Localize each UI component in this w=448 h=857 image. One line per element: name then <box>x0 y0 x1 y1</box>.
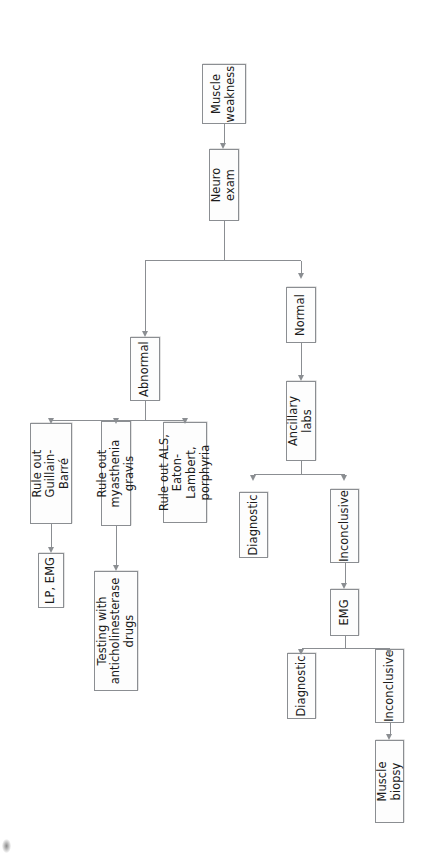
arrowhead-labs-inconclusive <box>341 475 347 481</box>
node-lp-emg[interactable]: LP, EMG <box>38 553 64 608</box>
arrowhead-neuro-exam <box>220 143 226 149</box>
arrowhead-emg-diagnostic <box>298 649 304 655</box>
arrowhead-rule-out-als <box>182 418 188 424</box>
node-labs-diagnostic[interactable]: Diagnostic <box>239 492 268 558</box>
node-rule-out-myasthenia-gravis[interactable]: Rule out myasthenia gravis <box>101 421 131 526</box>
edge-ancillary-labs-trunk <box>301 461 302 475</box>
node-abnormal[interactable]: Abnormal <box>130 337 160 401</box>
node-ancillary-labs[interactable]: Ancillary labs <box>286 381 316 461</box>
scan-artifact-smudge <box>2 839 11 853</box>
edge-muscle-weakness-to-neuro-exam <box>224 124 225 143</box>
edge-emg-inconclusive-to-muscle-biopsy <box>390 723 391 734</box>
arrowhead-rule-out-guillain-barre <box>48 418 54 424</box>
arrowhead-lp-emg <box>48 547 54 553</box>
arrowhead-rule-out-myasthenia-gravis <box>113 418 119 424</box>
node-testing-anticholinesterase-drugs[interactable]: Testing with anticholinesterase drugs <box>94 571 138 691</box>
edge-myasthenia-to-testing <box>116 526 117 565</box>
edge-neuro-exam-trunk <box>224 221 225 261</box>
edge-normal-to-ancillary-labs <box>301 343 302 375</box>
arrowhead-emg <box>341 583 347 589</box>
node-muscle-weakness[interactable]: Muscle weakness <box>202 64 246 124</box>
edge-emg-split-bus <box>302 648 390 649</box>
arrowhead-emg-inconclusive <box>386 649 392 655</box>
flowchart-canvas: Muscle weakness Neuro exam Abnormal Norm… <box>0 0 448 857</box>
edge-neuro-exam-split-bus <box>145 260 301 261</box>
arrowhead-labs-diagnostic <box>250 475 256 481</box>
edge-abnormal-trunk <box>145 401 146 421</box>
arrowhead-testing-anticholinesterase <box>113 565 119 571</box>
node-labs-inconclusive[interactable]: Inconclusive <box>330 489 359 563</box>
node-neuro-exam[interactable]: Neuro exam <box>209 149 239 221</box>
edge-neuro-exam-to-normal <box>301 261 302 273</box>
arrowhead-abnormal <box>142 331 148 337</box>
edge-neuro-exam-to-abnormal <box>145 261 146 331</box>
node-normal[interactable]: Normal <box>286 287 316 343</box>
node-rule-out-guillain-barre[interactable]: Rule out Guillain- Barré <box>30 423 72 524</box>
node-emg-diagnostic[interactable]: Diagnostic <box>287 653 316 719</box>
node-emg[interactable]: EMG <box>330 589 359 636</box>
edge-labs-inconclusive-to-emg <box>345 563 346 583</box>
edge-ancillary-labs-split-bus <box>254 474 345 475</box>
edge-guillain-barre-to-lp-emg <box>51 524 52 547</box>
arrowhead-muscle-biopsy <box>386 734 392 740</box>
arrowhead-ancillary-labs <box>298 375 304 381</box>
node-muscle-biopsy[interactable]: Muscle biopsy <box>375 740 404 823</box>
node-emg-inconclusive[interactable]: Inconclusive <box>375 649 404 723</box>
arrowhead-normal <box>298 273 304 279</box>
node-rule-out-als-eaton-lambert-porphyria[interactable]: Rule out ALS, Eaton- Lambert, porphyria <box>163 422 207 523</box>
